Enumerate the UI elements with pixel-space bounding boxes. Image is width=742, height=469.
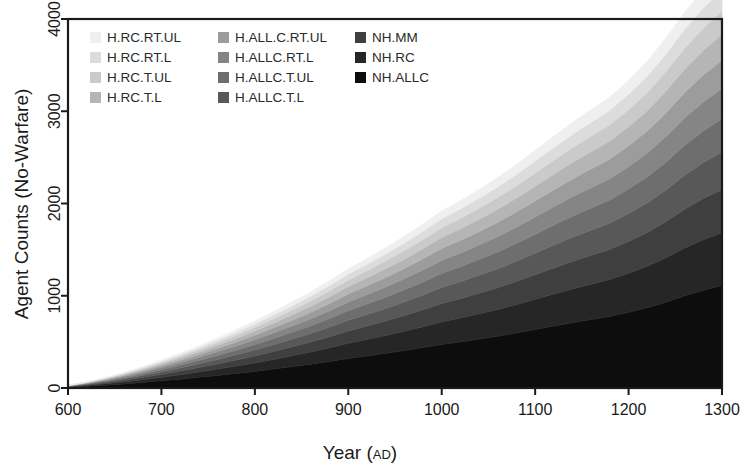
chart-figure: 6007008009001000110012001300 01000200030… [0,0,742,469]
legend-swatch-icon [218,52,229,63]
legend-swatch-icon [90,92,101,103]
x-tick-label: 700 [148,401,175,418]
legend-label: H.ALLC.RT.L [235,50,314,65]
y-tick-label: 3000 [46,93,63,129]
legend-label: H.RC.T.L [107,90,162,105]
legend-item: NH.RC [355,50,415,65]
legend-label: H.RC.RT.L [107,50,172,65]
legend-label: H.ALL.C.RT.UL [235,30,328,45]
x-axis-title-paren-close: ) [391,442,397,463]
x-tick-label: 1000 [424,401,460,418]
y-tick-label: 4000 [46,1,63,37]
x-tick-label: 600 [55,401,82,418]
legend-item: H.ALL.C.RT.UL [218,30,328,45]
legend-label: NH.ALLC [372,70,429,85]
y-tick-label: 0 [46,383,63,392]
y-tick-label: 1000 [46,278,63,314]
y-axis-title: Agent Counts (No-Warfare) [11,89,32,320]
legend-item: NH.MM [355,30,418,45]
legend-swatch-icon [90,72,101,83]
x-tick-label: 900 [335,401,362,418]
x-axis-title-main: Year [323,442,362,463]
legend-label: H.ALLC.T.UL [235,70,314,85]
stacked-area-chart: 6007008009001000110012001300 01000200030… [0,0,742,469]
legend-swatch-icon [355,32,366,43]
legend-swatch-icon [355,52,366,63]
legend-item: H.RC.T.L [90,90,162,105]
x-tick-label: 1300 [704,401,740,418]
legend-label: NH.RC [372,50,415,65]
x-tick-label: 800 [242,401,269,418]
legend-swatch-icon [90,32,101,43]
legend-label: H.RC.T.UL [107,70,172,85]
legend-label: NH.MM [372,30,418,45]
legend-swatch-icon [90,52,101,63]
legend-swatch-icon [218,92,229,103]
y-tick-label: 2000 [46,186,63,222]
legend-label: H.RC.RT.UL [107,30,182,45]
x-tick-label: 1100 [518,401,553,418]
x-axis-title-ad: AD [373,447,391,462]
x-tick-label: 1200 [611,401,647,418]
legend-swatch-icon [355,72,366,83]
legend-swatch-icon [218,72,229,83]
legend-label: H.ALLC.T.L [235,90,305,105]
legend-swatch-icon [218,32,229,43]
